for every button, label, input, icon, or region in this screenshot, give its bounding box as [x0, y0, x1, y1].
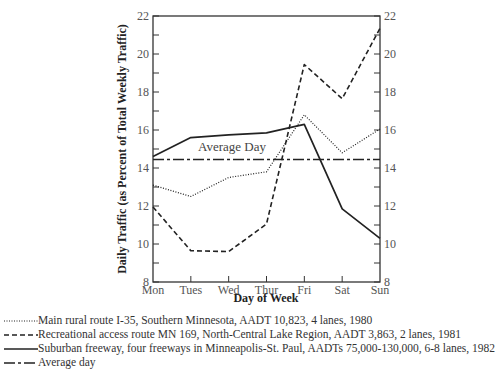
legend-item-dotted: Main rural route I-35, Southern Minnesot… — [4, 313, 495, 327]
line-chart: 810121416182022 810121416182022 MonTuesW… — [0, 0, 478, 310]
legend: Main rural route I-35, Southern Minnesot… — [4, 313, 495, 369]
series-dotted — [153, 115, 380, 197]
y-tick-label: 18 — [137, 85, 149, 99]
dashed-line-swatch-icon — [4, 330, 38, 338]
legend-item-solid: Suburban freeway, four freeways in Minne… — [4, 341, 495, 355]
y-axis-right: 810121416182022 — [374, 9, 396, 289]
legend-label: Suburban freeway, four freeways in Minne… — [38, 341, 495, 355]
series-layer — [153, 28, 380, 251]
x-axis-title: Day of Week — [233, 291, 298, 305]
y-tick-label: 22 — [137, 9, 149, 23]
y-axis-left: 810121416182022 — [137, 9, 159, 289]
legend-item-dashed: Recreational access route MN 169, North-… — [4, 327, 495, 341]
y-tick-label: 20 — [137, 47, 149, 61]
x-tick-label: Fri — [297, 283, 312, 297]
y-tick-label: 10 — [137, 237, 149, 251]
x-tick-label: Sun — [371, 283, 390, 297]
y-tick-label: 20 — [384, 47, 396, 61]
y-tick-label: 14 — [137, 161, 149, 175]
dotted-line-swatch-icon — [4, 316, 38, 324]
plot-frame — [153, 16, 380, 282]
legend-label: Recreational access route MN 169, North-… — [38, 327, 461, 341]
solid-line-swatch-icon — [4, 344, 38, 352]
y-tick-label: 10 — [384, 237, 396, 251]
y-tick-label: 16 — [384, 123, 396, 137]
y-tick-label: 12 — [137, 199, 149, 213]
dash-dot-line-swatch-icon — [4, 358, 38, 366]
y-axis-title: Daily Traffic (as Percent of Total Weekl… — [115, 24, 129, 274]
legend-item-dash-dot: Average day — [4, 355, 495, 369]
y-tick-label: 22 — [384, 9, 396, 23]
average-day-annotation: Average Day — [198, 139, 266, 154]
legend-label: Main rural route I-35, Southern Minnesot… — [38, 313, 372, 327]
x-tick-label: Tues — [179, 283, 202, 297]
x-tick-label: Sat — [334, 283, 350, 297]
x-tick-label: Mon — [142, 283, 165, 297]
plot-border — [153, 16, 380, 282]
y-tick-label: 18 — [384, 85, 396, 99]
legend-label: Average day — [38, 355, 96, 369]
y-tick-label: 16 — [137, 123, 149, 137]
y-tick-label: 14 — [384, 161, 396, 175]
y-tick-label: 12 — [384, 199, 396, 213]
